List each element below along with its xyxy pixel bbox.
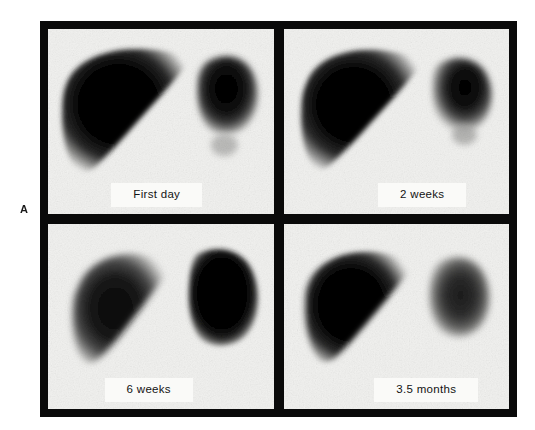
scan-montage: First day <box>40 21 517 417</box>
scan-panel-3-5-months[interactable]: 3.5 months <box>284 224 510 409</box>
faint-inferior-activity <box>211 134 238 156</box>
spleen-uptake-region <box>197 56 257 134</box>
spleen-uptake-region <box>189 249 258 345</box>
spleen-uptake-region <box>432 58 491 132</box>
scintigram-image-first-day <box>48 29 274 214</box>
scintigram-image-3-5-months <box>284 224 510 409</box>
spleen-uptake-region <box>429 257 489 336</box>
figure-panel-letter: A <box>20 203 28 215</box>
scan-panel-2-weeks[interactable]: 2 weeks <box>284 29 510 214</box>
scan-panel-6-weeks[interactable]: 6 weeks <box>48 224 274 409</box>
faint-inferior-activity <box>452 125 477 145</box>
scan-panel-first-day[interactable]: First day <box>48 29 274 214</box>
scintigram-image-6-weeks <box>48 224 274 409</box>
scintigram-image-2-weeks <box>284 29 510 214</box>
